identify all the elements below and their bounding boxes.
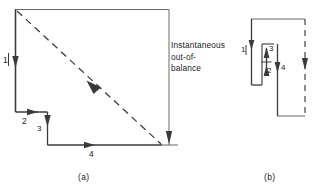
out-of-balance-annotation: Instantaneous out-of- balance	[171, 40, 225, 75]
figure-container: 1 2 3 4 Instantaneous out-of- balance 1 …	[0, 0, 321, 192]
panel-a-resultant-arrowhead	[87, 81, 102, 95]
annotation-line-2: out-of-	[171, 52, 225, 64]
annotation-line-1: Instantaneous	[171, 40, 225, 52]
panel-a-segment-1-head	[12, 56, 18, 68]
panel-b-label-3: 3	[269, 44, 273, 53]
panel-b-geometry	[246, 19, 308, 116]
panel-a-label-1: 1	[3, 55, 8, 65]
panel-a-label-4: 4	[89, 149, 94, 159]
panel-a-segment-3-head	[44, 115, 50, 127]
panel-b-label-4: 4	[281, 63, 285, 72]
panel-b-segment-4-head	[275, 62, 281, 73]
panel-a-label-2: 2	[22, 116, 27, 126]
panel-b-resultant-arrowhead	[302, 58, 308, 70]
panel-b-label-2: 2	[267, 66, 271, 75]
annotation-line-3: balance	[171, 63, 225, 75]
panel-b-label-1: 1	[241, 45, 245, 54]
panel-a-label-3: 3	[37, 124, 41, 133]
panel-a-out-of-balance-arrowhead	[166, 131, 172, 144]
panel-a-segment-4-head	[84, 142, 95, 148]
caption-panel-a: (a)	[78, 172, 90, 182]
diagram-canvas	[0, 0, 321, 192]
panel-a-segment-2-head	[27, 109, 38, 115]
panel-b-segment-1-head	[249, 40, 255, 50]
panel-a-geometry	[9, 10, 179, 149]
caption-panel-b: (b)	[264, 172, 276, 182]
